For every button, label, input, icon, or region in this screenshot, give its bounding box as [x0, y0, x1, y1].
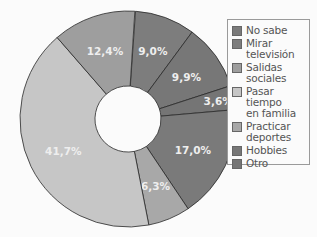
legend-label: Mirar televisión — [246, 38, 295, 60]
legend-swatch — [232, 159, 242, 169]
legend-label: Hobbies — [246, 145, 287, 156]
legend-swatch — [232, 26, 242, 36]
legend-item: Otro — [232, 158, 309, 169]
legend-label: Otro — [246, 158, 268, 169]
slice-label: 41,7% — [45, 145, 82, 157]
donut-chart: 9,0%9,9%3,6%17,0%6,3%41,7%12,4% — [0, 0, 230, 237]
legend-swatch — [232, 39, 242, 49]
legend-swatch — [232, 87, 242, 97]
legend-swatch — [232, 122, 242, 132]
slice-label: 17,0% — [175, 144, 212, 156]
slice-label: 12,4% — [87, 45, 124, 57]
slice-label: 6,3% — [141, 180, 171, 192]
legend-item: Practicar deportes — [232, 121, 309, 143]
legend-label: Practicar deportes — [246, 121, 291, 143]
legend-item: Mirar televisión — [232, 38, 309, 60]
legend-item: Hobbies — [232, 145, 309, 156]
chart-legend: No sabeMirar televisiónSalidas socialesP… — [227, 19, 310, 165]
legend-swatch — [232, 63, 242, 73]
legend-item: Salidas sociales — [232, 62, 309, 84]
slice-label: 9,0% — [138, 45, 168, 57]
slice-label: 9,9% — [172, 71, 202, 83]
legend-label: Pasar tiempo en familia — [246, 86, 309, 119]
legend-item: Pasar tiempo en familia — [232, 86, 309, 119]
legend-item: No sabe — [232, 25, 309, 36]
legend-swatch — [232, 146, 242, 156]
legend-label: Salidas sociales — [246, 62, 286, 84]
legend-label: No sabe — [246, 25, 287, 36]
